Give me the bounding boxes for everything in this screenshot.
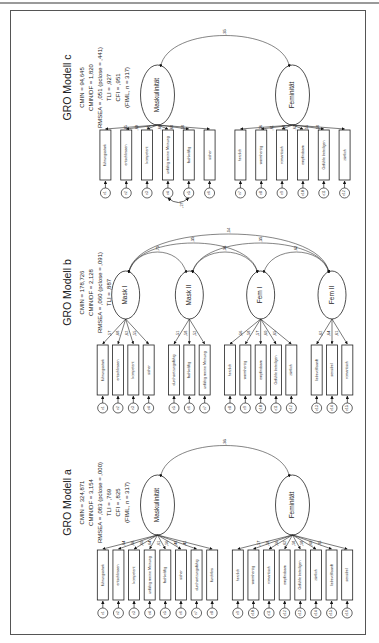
loading-value: ,69 xyxy=(135,125,139,130)
indicator-label: Gefühle beteiligen xyxy=(298,561,302,590)
factor-label: Fem II xyxy=(328,286,335,305)
correlation-path xyxy=(264,252,329,273)
indicator-label: entschlossen xyxy=(124,145,128,166)
correlation-path xyxy=(161,446,290,478)
indicator-label: sicher xyxy=(179,569,183,579)
model-title: GRO Modell b xyxy=(61,259,73,326)
model-c: GRO Modell cCMIN = 94,645CMIN/DF = 1,820… xyxy=(61,28,350,207)
correlation-value: ,14 xyxy=(226,227,231,233)
loading-value: ,66 xyxy=(131,541,135,546)
correlation-path xyxy=(192,252,257,273)
loading-value: ,57 xyxy=(108,331,112,336)
error-label: e10 xyxy=(251,610,255,616)
model-title: GRO Modell a xyxy=(61,469,73,536)
factor-label: Maskulinität xyxy=(153,78,160,113)
error-label: e13 xyxy=(315,405,319,411)
fit-statistic: (FIML, n = 317) xyxy=(124,67,130,108)
loading-value: ,58 xyxy=(300,541,304,546)
factor-label: Mask I xyxy=(121,285,128,304)
error-label: e12 xyxy=(342,190,346,196)
fit-statistic: CMIN = 94,645 xyxy=(79,67,85,108)
error-label: e14 xyxy=(330,405,334,411)
indicator-label: empfindsam xyxy=(301,145,305,165)
error-label: e3 xyxy=(131,406,135,410)
error-label: e12 xyxy=(289,405,293,411)
error-label: e8 xyxy=(228,406,232,410)
error-label: e1 xyxy=(101,406,105,410)
loading-value: ,58 xyxy=(181,125,185,130)
error-label: e5 xyxy=(163,611,167,615)
indicator-label: herzlich xyxy=(228,364,232,376)
error-label: e3 xyxy=(145,191,149,195)
loading-value: ,65 xyxy=(124,125,128,130)
indicator-label: sicher xyxy=(208,149,212,159)
indicator-label: warmherzig xyxy=(243,361,247,380)
indicator-label: zärtlich xyxy=(343,149,347,160)
indicator-label: fachkräftig xyxy=(163,567,167,584)
indicator-label: liebevoll/sanft xyxy=(330,564,334,586)
loading-value: ,71 xyxy=(147,125,151,130)
correlation-path xyxy=(161,36,290,68)
indicator-label: romantisch xyxy=(345,361,349,379)
indicator-label: durchsetzungsfähig xyxy=(172,354,176,385)
loading-value: ,58 xyxy=(247,331,251,336)
loading-value: ,62 xyxy=(319,331,323,336)
indicator-label: sensibel xyxy=(330,363,334,376)
indicator-label: liebevoll/sanft xyxy=(315,359,319,381)
loading-value: ,55 xyxy=(133,331,137,336)
error-label: e3 xyxy=(132,611,136,615)
error-label: e5 xyxy=(187,191,191,195)
correlation-path xyxy=(129,234,329,273)
indicator-label: herzlich xyxy=(238,149,242,161)
model-b: GRO Modell bCMIN = 178,726CMIN/DF = 2,12… xyxy=(61,227,353,413)
loading-value: ,60 xyxy=(140,541,144,546)
fit-statistic: CMIN/DF = 3,154 xyxy=(88,478,94,526)
factor-label: Feminität xyxy=(288,491,295,518)
fit-statistic: CFI = ,951 xyxy=(115,73,121,102)
loading-path xyxy=(189,319,204,344)
factor-label: Mask II xyxy=(185,284,192,305)
error-label: e2 xyxy=(116,406,120,410)
indicator-label: empfindsam xyxy=(259,360,263,380)
fit-statistic: TLI = ,927 xyxy=(106,73,112,101)
loading-value: ,58 xyxy=(184,331,188,336)
error-label: e6 xyxy=(207,191,211,195)
error-label: e13 xyxy=(298,610,302,616)
loading-value: ,51 xyxy=(176,331,180,336)
error-covariance-path xyxy=(168,198,189,203)
error-label: e11 xyxy=(267,610,271,615)
loading-value: ,66 xyxy=(158,125,162,130)
indicator-label: führungsstark xyxy=(101,564,105,586)
loading-value: ,58 xyxy=(292,541,296,546)
indicator-label: unfähig meine Meinung xyxy=(148,556,152,593)
indicator-label: entschlossen xyxy=(116,565,120,586)
error-label: e8 xyxy=(259,191,263,195)
indicator-label: empfindsam xyxy=(283,565,287,585)
indicator-label: Gefühle beteiligen xyxy=(322,141,326,170)
loading-value: ,64 xyxy=(327,331,331,336)
indicator-label: kompetent xyxy=(132,567,136,584)
loading-value: ,64 xyxy=(122,541,126,546)
error-label: e5 xyxy=(172,406,176,410)
indicator-label: sicher xyxy=(147,364,151,374)
indicator-label: kompetent xyxy=(145,147,149,164)
correlation-value: ,62 xyxy=(293,245,298,251)
indicator-label: romantisch xyxy=(280,146,284,164)
loading-value: ,56 xyxy=(165,541,169,546)
fit-statistic: CMIN/DF = 1,820 xyxy=(88,63,94,111)
fit-statistic: TLI = ,887 xyxy=(106,278,112,306)
loading-value: ,52 xyxy=(193,331,197,336)
fit-statistic: CFI = ,825 xyxy=(115,488,121,517)
indicator-label: kompetent xyxy=(131,362,135,379)
fit-statistic: RMSEA = ,051 (pclose = ,441) xyxy=(97,47,103,128)
error-label: e2 xyxy=(116,611,120,615)
loading-value: ,61 xyxy=(335,331,339,336)
loading-value: ,65 xyxy=(273,331,277,336)
indicator-label: fachkräftig xyxy=(187,147,191,164)
indicator-label: warmherzig xyxy=(251,566,255,585)
indicator-label: führungsstark xyxy=(103,144,107,166)
indicator-label: furchtlos xyxy=(210,568,214,582)
loading-value: ,56 xyxy=(239,331,243,336)
fit-statistic: RMSEA = ,060 (pclose = ,091) xyxy=(97,252,103,333)
loading-value: ,64 xyxy=(148,541,152,546)
